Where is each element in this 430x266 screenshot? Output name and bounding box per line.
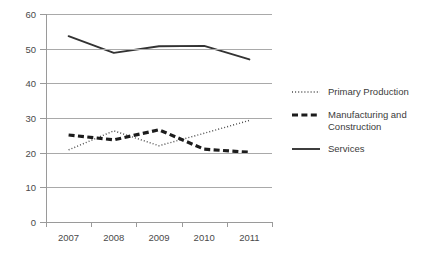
y-axis-tick-label: 60 bbox=[25, 9, 36, 20]
x-axis-tick-label: 2008 bbox=[103, 232, 124, 243]
x-tick bbox=[46, 222, 47, 227]
series-line bbox=[69, 120, 250, 149]
x-axis-tick-label: 2009 bbox=[148, 232, 169, 243]
y-axis-line bbox=[46, 14, 47, 223]
x-axis-tick-label: 2011 bbox=[239, 232, 259, 243]
y-tick-40 bbox=[40, 83, 46, 84]
legend-item[interactable]: Services bbox=[292, 143, 428, 155]
y-axis-tick-label: 10 bbox=[25, 182, 36, 193]
y-axis-tick-label: 0 bbox=[31, 217, 36, 228]
x-axis-line bbox=[46, 222, 273, 223]
x-tick bbox=[182, 222, 183, 227]
grid-line-50 bbox=[46, 49, 272, 50]
y-tick-10 bbox=[40, 187, 46, 188]
grid-line-30 bbox=[46, 118, 272, 119]
legend-swatch-icon bbox=[292, 143, 320, 155]
y-axis-tick-label: 30 bbox=[25, 113, 36, 124]
y-axis-tick-label: 20 bbox=[25, 147, 36, 158]
legend-item[interactable]: Primary Production bbox=[292, 86, 428, 98]
legend-swatch-icon bbox=[292, 86, 320, 98]
legend-swatch-icon bbox=[292, 109, 320, 121]
x-tick bbox=[136, 222, 137, 227]
chart-legend: Primary ProductionManufacturing and Cons… bbox=[292, 86, 428, 166]
grid-line-20 bbox=[46, 153, 272, 154]
x-axis-tick-label: 2007 bbox=[58, 232, 79, 243]
grid-line-10 bbox=[46, 187, 272, 188]
legend-item[interactable]: Manufacturing and Construction bbox=[292, 109, 428, 132]
legend-item-label: Primary Production bbox=[328, 86, 409, 98]
line-chart: 0102030405060 Primary ProductionManufact… bbox=[0, 0, 430, 266]
series-line bbox=[69, 130, 250, 153]
y-axis-tick-label: 40 bbox=[25, 78, 36, 89]
plot-area bbox=[46, 14, 272, 222]
y-tick-20 bbox=[40, 153, 46, 154]
grid-line-60 bbox=[46, 14, 272, 15]
y-tick-30 bbox=[40, 118, 46, 119]
grid-line-40 bbox=[46, 83, 272, 84]
x-tick bbox=[91, 222, 92, 227]
x-tick bbox=[272, 222, 273, 227]
legend-item-label: Manufacturing and Construction bbox=[328, 109, 428, 132]
x-tick bbox=[227, 222, 228, 227]
x-axis-tick-label: 2010 bbox=[194, 232, 215, 243]
y-axis-labels: 0102030405060 bbox=[0, 0, 36, 266]
y-tick-50 bbox=[40, 49, 46, 50]
legend-item-label: Services bbox=[328, 143, 364, 155]
y-tick-60 bbox=[40, 14, 46, 15]
y-axis-tick-label: 50 bbox=[25, 43, 36, 54]
